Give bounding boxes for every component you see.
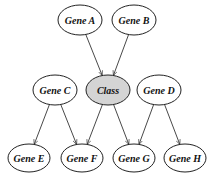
- node-label: Gene F: [67, 153, 98, 164]
- node-label: Gene H: [169, 153, 202, 164]
- edge-gene_d-to-gene_h: [165, 105, 180, 145]
- node-gene-g: Gene G: [113, 144, 155, 172]
- edge-gene_b-to-class: [113, 35, 128, 76]
- node-gene-c: Gene C: [33, 75, 77, 105]
- bayesian-network-diagram: Gene AGene BGene CClassGene DGene EGene …: [0, 0, 217, 185]
- node-label: Gene A: [65, 15, 96, 26]
- node-gene-f: Gene F: [61, 144, 103, 172]
- nodes: Gene AGene BGene CClassGene DGene EGene …: [8, 5, 206, 172]
- node-gene-d: Gene D: [137, 75, 181, 105]
- node-class: Class: [86, 75, 130, 105]
- node-gene-b: Gene B: [112, 5, 156, 35]
- node-label: Gene B: [119, 15, 150, 26]
- node-label: Class: [97, 85, 119, 96]
- node-label: Gene E: [14, 153, 45, 164]
- node-gene-a: Gene A: [58, 5, 102, 35]
- edge-gene_a-to-class: [86, 34, 102, 75]
- node-label: Gene G: [118, 153, 150, 164]
- edge-gene_c-to-gene_e: [34, 105, 49, 145]
- node-gene-e: Gene E: [8, 144, 50, 172]
- node-label: Gene D: [143, 85, 174, 96]
- edge-class-to-gene_g: [114, 105, 129, 145]
- node-label: Gene C: [40, 85, 71, 96]
- edge-class-to-gene_f: [87, 105, 102, 145]
- edge-gene_d-to-gene_g: [139, 105, 154, 145]
- node-gene-h: Gene H: [164, 144, 206, 172]
- edge-gene_c-to-gene_f: [61, 104, 77, 144]
